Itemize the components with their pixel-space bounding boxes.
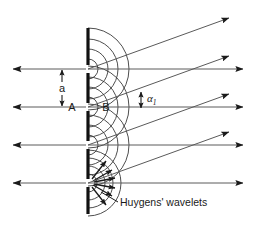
- diffraction-diagram-svg: a α1 A B Huygens' wavelets: [0, 0, 253, 229]
- angle-label-group: α1: [147, 92, 157, 107]
- point-b-label: B: [102, 101, 109, 113]
- callout-leader-line: [101, 192, 118, 202]
- diffracted-ray-1: [88, 18, 229, 69]
- slit-spacing-label: a: [59, 82, 66, 94]
- huygens-wavelets-figure: a α1 A B Huygens' wavelets: [0, 0, 253, 229]
- angle-subscript-label: 1: [153, 98, 157, 107]
- point-a-label: A: [68, 101, 76, 113]
- diffracted-ray-2: [88, 56, 229, 107]
- huygens-wavelets-callout-label: Huygens' wavelets: [120, 196, 207, 208]
- incident-rays-group: [13, 69, 86, 183]
